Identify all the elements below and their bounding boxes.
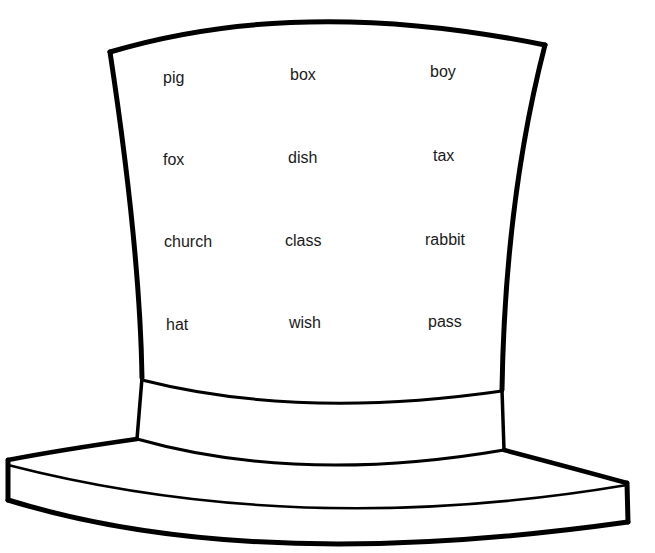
hat-crown-right-side <box>502 45 545 390</box>
word-class: class <box>285 233 321 249</box>
hat-brim-right-edge <box>504 450 627 483</box>
word-rabbit: rabbit <box>425 232 465 248</box>
top-hat-drawing <box>0 0 655 553</box>
hat-brim-front-top <box>8 465 627 508</box>
hat-brim-left-edge <box>8 439 137 460</box>
hat-band-left <box>137 378 142 439</box>
hat-band-top <box>142 380 502 403</box>
word-pig: pig <box>163 70 184 86</box>
word-wish: wish <box>289 315 321 331</box>
word-church: church <box>164 234 212 250</box>
word-boy: boy <box>430 64 456 80</box>
word-pass: pass <box>428 314 462 330</box>
hat-crown-left-side <box>110 52 142 378</box>
word-hat: hat <box>166 317 188 333</box>
hat-band-right <box>502 390 504 450</box>
word-box: box <box>290 67 316 83</box>
word-fox: fox <box>163 152 184 168</box>
word-tax: tax <box>433 148 454 164</box>
hat-brim-right-side <box>627 483 628 522</box>
hat-band-bottom <box>137 439 504 465</box>
hat-crown-top <box>110 22 545 52</box>
word-dish: dish <box>288 150 317 166</box>
